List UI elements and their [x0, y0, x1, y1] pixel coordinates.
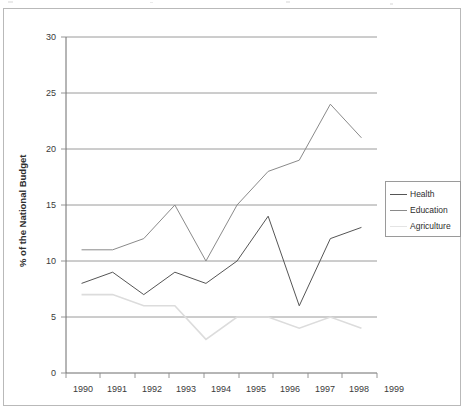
legend-swatch-agriculture	[390, 226, 407, 227]
x-tick-label: 1999	[384, 384, 404, 394]
y-tick-label: 20	[46, 144, 56, 154]
x-tick-label: 1994	[211, 384, 231, 394]
x-tick-label: 1993	[176, 384, 196, 394]
legend-label-education: Education	[410, 205, 448, 215]
y-tick-label: 5	[51, 312, 56, 322]
y-tick-label: 25	[46, 88, 56, 98]
scan-speck	[150, 2, 153, 3]
x-tick-label: 1992	[142, 384, 162, 394]
y-tick-labels: 30 25 20 15 10 5 0	[46, 32, 56, 378]
scan-speck	[8, 1, 13, 3]
y-tick-label: 30	[46, 32, 56, 42]
chart-legend: Health Education Agriculture	[385, 181, 461, 237]
legend-label-agriculture: Agriculture	[410, 221, 451, 231]
y-tick-label: 10	[46, 256, 56, 266]
legend-swatch-health	[390, 194, 407, 195]
scan-speck	[286, 1, 290, 3]
series-group	[82, 104, 362, 339]
y-axis-title: % of the National Budget	[17, 154, 28, 267]
x-tick-label: 1995	[246, 384, 266, 394]
legend-label-health: Health	[410, 189, 435, 199]
scan-speck	[390, 3, 393, 5]
x-tick-label: 1997	[315, 384, 335, 394]
x-tick-label: 1998	[349, 384, 369, 394]
y-tick-marks	[61, 37, 66, 373]
x-tick-marks	[66, 373, 377, 378]
legend-item-education[interactable]: Education	[390, 202, 457, 218]
x-tick-label: 1996	[280, 384, 300, 394]
legend-swatch-education	[390, 210, 407, 211]
x-tick-label: 1990	[73, 384, 93, 394]
series-line-education	[82, 104, 362, 261]
legend-item-agriculture[interactable]: Agriculture	[390, 218, 457, 234]
x-tick-labels: 1990 1991 1992 1993 1994 1995 1996 1997 …	[73, 384, 404, 394]
gridlines	[66, 37, 377, 317]
legend-item-health[interactable]: Health	[390, 186, 457, 202]
y-tick-label: 0	[51, 368, 56, 378]
x-tick-label: 1991	[107, 384, 127, 394]
chart-frame: 30 25 20 15 10 5 0 % of the National Bud…	[3, 8, 461, 406]
y-tick-label: 15	[46, 200, 56, 210]
